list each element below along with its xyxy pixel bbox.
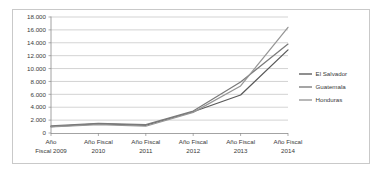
x-tick-label-line: 2013 xyxy=(234,147,248,154)
x-tick-label-line: 2012 xyxy=(186,147,200,154)
x-tick-label: Año Fiscal2010 xyxy=(84,138,113,154)
data-line-el-salvador xyxy=(51,50,288,127)
x-tick-label: AñoFiscal 2009 xyxy=(35,138,67,154)
x-tick-label-line: Año Fiscal xyxy=(274,138,303,145)
legend-label-honduras: Honduras xyxy=(316,96,343,103)
legend-label-guatemala: Guatemala xyxy=(316,83,347,90)
x-tick-label: Año Fiscal2011 xyxy=(131,138,160,154)
y-tick-label: 6.000 xyxy=(31,91,47,98)
data-line-guatemala xyxy=(51,44,288,126)
x-tick-label-line: Año Fiscal xyxy=(226,138,255,145)
y-tick-label: 10.000 xyxy=(27,65,46,72)
line-chart-figure: 02.0004.0006.0008.00010.00012.00014.0001… xyxy=(0,0,383,179)
y-tick-label: 12.000 xyxy=(27,52,46,59)
x-tick-label-line: Año xyxy=(45,138,57,145)
x-tick-label-line: Año Fiscal xyxy=(84,138,113,145)
chart-legend: El SalvadorGuatemalaHonduras xyxy=(299,70,347,103)
y-tick-label: 8.000 xyxy=(31,78,47,85)
y-tick-label: 18.000 xyxy=(27,13,46,20)
y-axis-tick-labels: 02.0004.0006.0008.00010.00012.00014.0001… xyxy=(27,13,46,136)
x-tick-label-line: Año Fiscal xyxy=(131,138,160,145)
y-tick-label: 14.000 xyxy=(27,39,46,46)
x-tick-label-line: Fiscal 2009 xyxy=(35,147,67,154)
legend-label-el-salvador: El Salvador xyxy=(316,70,348,77)
data-series-group xyxy=(51,27,288,127)
chart-svg: 02.0004.0006.0008.00010.00012.00014.0001… xyxy=(0,0,383,179)
x-tick-label-line: 2010 xyxy=(92,147,106,154)
y-tick-label: 0 xyxy=(43,129,47,136)
x-tick-label: Año Fiscal2013 xyxy=(226,138,255,154)
x-tick-label-line: 2014 xyxy=(281,147,295,154)
x-tick-label: Año Fiscal2014 xyxy=(274,138,303,154)
y-tick-label: 4.000 xyxy=(31,103,47,110)
x-axis-tick-labels: AñoFiscal 2009Año Fiscal2010Año Fiscal20… xyxy=(35,138,302,154)
gridlines-group xyxy=(51,17,288,120)
x-tick-label: Año Fiscal2012 xyxy=(179,138,208,154)
y-tick-label: 16.000 xyxy=(27,26,46,33)
x-tick-label-line: Año Fiscal xyxy=(179,138,208,145)
data-line-honduras xyxy=(51,27,288,127)
x-tick-label-line: 2011 xyxy=(139,147,153,154)
y-tick-label: 2.000 xyxy=(31,116,47,123)
